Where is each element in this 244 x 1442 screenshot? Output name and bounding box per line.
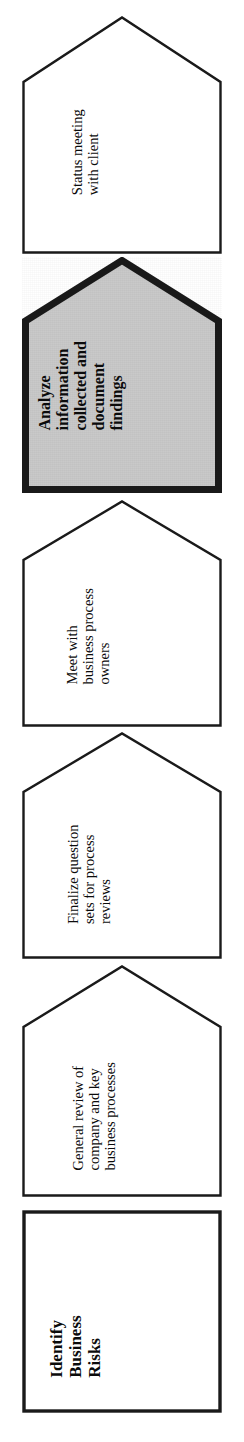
pentagon-arrow-shape	[22, 732, 222, 959]
process-step-analyze-information[interactable]: Analyze information collected and docume…	[22, 257, 222, 493]
process-step-status-meeting[interactable]: Status meeting with client	[22, 16, 222, 254]
pentagon-arrow-shape	[22, 965, 222, 1197]
process-step-identify-business-risks[interactable]: Identify Business Risks	[22, 1210, 222, 1413]
pentagon-arrow-shape-highlighted	[22, 257, 222, 493]
process-flow-diagram: Status meeting with client Analyze infor…	[0, 0, 244, 1442]
pentagon-arrow-shape	[22, 500, 222, 727]
pentagon-arrow-shape	[22, 16, 222, 254]
process-step-general-review[interactable]: General review of company and key busine…	[22, 965, 222, 1197]
process-step-meet-owners[interactable]: Meet with business process owners	[22, 500, 222, 727]
rectangle-shape	[22, 1210, 222, 1413]
process-step-finalize-questions[interactable]: Finalize question sets for process revie…	[22, 732, 222, 959]
